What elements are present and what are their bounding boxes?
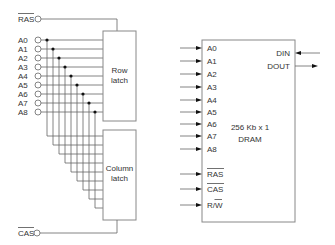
arrow-right-icon [196,172,202,176]
arrow-right-icon [196,46,202,50]
dram-pin-label: A8 [207,145,217,154]
address-input-label: A1 [18,45,28,54]
address-terminal-icon [35,55,41,61]
cas-input-terminal-icon [34,230,40,236]
junction-dot-icon [57,56,60,59]
arrow-right-icon [196,203,202,207]
dram-pin-label: A3 [207,83,217,92]
dram-address-multiplexing-diagram: RAS A0 A1 A2 A3 A4 A5 A6 A7 A8 [0,0,335,245]
ras-input-label: RAS [18,15,34,24]
dram-address-arrows [180,46,202,151]
junction-dot-icon [51,47,54,50]
arrow-right-icon [196,147,202,151]
address-input-label: A0 [18,36,28,45]
dram-pin-label: A7 [207,132,217,141]
arrow-right-icon [196,134,202,138]
arrow-left-icon [295,51,301,55]
cas-wire [40,220,117,233]
left-circuit: RAS A0 A1 A2 A3 A4 A5 A6 A7 A8 [18,14,136,239]
dram-address-pins: A0 A1 A2 A3 A4 A5 A6 A7 A8 [207,44,217,154]
dram-cas-pin-label: CAS [207,185,223,194]
dram-pin-label: A5 [207,108,217,117]
address-input-label: A8 [18,108,28,117]
column-latch-label: latch [111,174,128,183]
dram-rw-pin-label: R/W [207,201,223,210]
address-terminal-icon [35,82,41,88]
ras-wire [41,19,117,31]
address-terminal-icon [35,109,41,115]
dram-subtitle: DRAM [238,135,262,144]
dram-chip: A0 A1 A2 A3 A4 A5 A6 A7 A8 RAS CAS R/W 2… [180,40,320,222]
address-input-label: A3 [18,63,28,72]
address-input-label: A5 [18,81,28,90]
junction-dot-icon [63,65,66,68]
dram-pin-label: A1 [207,57,217,66]
arrow-right-icon [196,187,202,191]
address-terminal-icon [35,37,41,43]
dram-pin-label: A2 [207,70,217,79]
address-terminal-icon [35,46,41,52]
address-terminal-icon [35,91,41,97]
dram-pin-label: A0 [207,44,217,53]
dout-pin-label: DOUT [267,62,290,71]
junction-dot-icon [87,101,90,104]
address-terminal-icon [35,100,41,106]
row-latch-label: Row [111,66,127,75]
dram-ras-pin-label: RAS [207,170,223,179]
row-latch-label: latch [111,76,128,85]
arrow-right-icon [196,98,202,102]
address-input-label: A7 [18,99,28,108]
address-inputs: A0 A1 A2 A3 A4 A5 A6 A7 A8 [18,36,41,117]
address-input-label: A6 [18,90,28,99]
junction-dot-icon [93,110,96,113]
junction-dot-icon [81,92,84,95]
junction-dot-icon [69,74,72,77]
arrow-right-icon [196,59,202,63]
junction-dot-icon [75,83,78,86]
address-input-label: A2 [18,54,28,63]
arrow-right-icon [196,110,202,114]
column-latch-label: Column [106,164,134,173]
junction-dot-icon [45,38,48,41]
address-terminal-icon [35,73,41,79]
address-terminal-icon [35,64,41,70]
dram-pin-label: A4 [207,96,217,105]
din-pin-label: DIN [276,49,290,58]
column-address-wires [47,40,103,208]
dram-title: 256 Kb x 1 [231,123,270,132]
dram-pin-label: A6 [207,120,217,129]
address-input-label: A4 [18,72,28,81]
arrow-right-icon [312,64,318,68]
ras-input-terminal-icon [35,16,41,22]
cas-input-label: CAS [18,229,34,238]
arrow-right-icon [196,85,202,89]
arrow-right-icon [196,72,202,76]
arrow-right-icon [196,122,202,126]
